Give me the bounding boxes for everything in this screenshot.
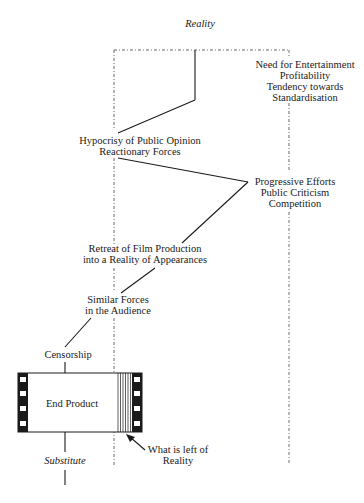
hypocrisy-label: Hypocrisy of Public Opinion Reactionary … bbox=[79, 135, 201, 157]
svg-text:Similar Forces: Similar Forces bbox=[87, 294, 149, 305]
forces-top-right-label: Need for Entertainment Profitability Ten… bbox=[255, 59, 354, 103]
svg-text:Progressive Efforts: Progressive Efforts bbox=[255, 176, 336, 187]
film-strip: End Product bbox=[18, 373, 142, 432]
similar-forces-label: Similar Forces in the Audience bbox=[85, 294, 151, 316]
svg-text:Profitability: Profitability bbox=[280, 70, 331, 81]
svg-text:Reactionary Forces: Reactionary Forces bbox=[99, 146, 180, 157]
svg-text:Need for Entertainment: Need for Entertainment bbox=[255, 59, 354, 70]
diagram-title: Reality bbox=[184, 18, 215, 29]
svg-text:Competition: Competition bbox=[269, 198, 322, 209]
svg-text:Standardisation: Standardisation bbox=[272, 92, 338, 103]
end-product-label: End Product bbox=[46, 398, 98, 409]
what-is-left-label: What is left of Reality bbox=[148, 444, 209, 466]
substitute-label: Substitute bbox=[44, 455, 86, 466]
retreat-label: Retreat of Film Production into a Realit… bbox=[83, 243, 207, 265]
svg-text:Public Criticism: Public Criticism bbox=[261, 187, 330, 198]
svg-text:Tendency towards: Tendency towards bbox=[267, 81, 344, 92]
censorship-label: Censorship bbox=[44, 349, 91, 360]
svg-text:Retreat of Film Production: Retreat of Film Production bbox=[89, 243, 203, 254]
svg-text:Reality: Reality bbox=[163, 455, 194, 466]
svg-text:Hypocrisy of Public Opinion: Hypocrisy of Public Opinion bbox=[79, 135, 201, 146]
svg-text:in the Audience: in the Audience bbox=[85, 305, 151, 316]
arrow-icon bbox=[126, 434, 145, 450]
svg-text:into a Reality of Appearances: into a Reality of Appearances bbox=[83, 254, 207, 265]
progressive-label: Progressive Efforts Public Criticism Com… bbox=[255, 176, 336, 209]
svg-text:What is left of: What is left of bbox=[148, 444, 209, 455]
diagram-canvas: Reality Need for Entertainment Profitabi… bbox=[0, 0, 364, 503]
